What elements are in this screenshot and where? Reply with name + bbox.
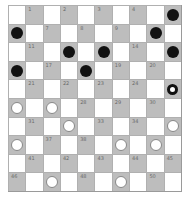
square-number: 31 [28,119,34,124]
light-square [112,5,129,24]
square-number: 43 [97,156,103,161]
square-50[interactable]: 50 [146,172,163,191]
light-square [25,135,42,154]
light-square [8,42,25,61]
light-square [60,61,77,80]
square-31[interactable]: 31 [25,117,42,136]
square-11[interactable]: 11 [25,42,42,61]
square-17[interactable]: 17 [43,61,60,80]
square-43[interactable]: 43 [94,154,111,173]
square-10[interactable] [146,24,163,43]
white-piece[interactable] [150,139,162,151]
square-32[interactable] [60,117,77,136]
square-number: 3 [97,7,100,12]
square-42[interactable]: 42 [60,154,77,173]
square-41[interactable]: 41 [25,154,42,173]
square-40[interactable] [146,135,163,154]
square-13[interactable] [94,42,111,61]
square-8[interactable]: 8 [77,24,94,43]
light-square [112,42,129,61]
square-46[interactable]: 46 [8,172,25,191]
black-piece[interactable] [150,27,162,39]
square-2[interactable]: 2 [60,5,77,24]
light-square [77,117,94,136]
square-9[interactable]: 9 [112,24,129,43]
light-square [112,117,129,136]
square-number: 4 [132,7,135,12]
square-15[interactable] [164,42,181,61]
light-square [25,172,42,191]
square-number: 28 [80,100,86,105]
light-square [129,98,146,117]
square-25[interactable] [164,79,181,98]
square-30[interactable]: 30 [146,98,163,117]
square-20[interactable]: 20 [146,61,163,80]
square-36[interactable] [8,135,25,154]
square-18[interactable] [77,61,94,80]
ring-piece[interactable] [167,84,178,95]
square-33[interactable]: 33 [94,117,111,136]
black-piece[interactable] [11,27,23,39]
square-number: 17 [46,63,52,68]
square-38[interactable]: 38 [77,135,94,154]
square-number: 46 [11,174,17,179]
square-35[interactable] [164,117,181,136]
light-square [43,5,60,24]
square-24[interactable]: 24 [129,79,146,98]
white-piece[interactable] [63,120,75,132]
light-square [8,5,25,24]
square-number: 22 [63,81,69,86]
square-27[interactable] [43,98,60,117]
square-26[interactable] [8,98,25,117]
square-29[interactable]: 29 [112,98,129,117]
square-21[interactable]: 21 [25,79,42,98]
square-34[interactable]: 34 [129,117,146,136]
square-number: 7 [46,26,49,31]
square-37[interactable]: 37 [43,135,60,154]
square-22[interactable]: 22 [60,79,77,98]
black-piece[interactable] [167,46,179,58]
black-piece[interactable] [63,46,75,58]
square-19[interactable]: 19 [112,61,129,80]
square-3[interactable]: 3 [94,5,111,24]
square-number: 29 [115,100,121,105]
white-piece[interactable] [46,102,58,114]
square-number: 44 [132,156,138,161]
black-piece[interactable] [11,65,23,77]
light-square [129,61,146,80]
square-number: 45 [167,156,173,161]
black-piece[interactable] [80,65,92,77]
square-44[interactable]: 44 [129,154,146,173]
square-number: 30 [149,100,155,105]
white-piece[interactable] [11,139,23,151]
light-square [164,24,181,43]
light-square [77,42,94,61]
square-23[interactable]: 23 [94,79,111,98]
black-piece[interactable] [167,9,179,21]
square-49[interactable] [112,172,129,191]
white-piece[interactable] [11,102,23,114]
white-piece[interactable] [46,176,58,188]
square-4[interactable]: 4 [129,5,146,24]
square-28[interactable]: 28 [77,98,94,117]
white-piece[interactable] [115,139,127,151]
black-piece[interactable] [98,46,110,58]
square-45[interactable]: 45 [164,154,181,173]
square-1[interactable]: 1 [25,5,42,24]
square-14[interactable]: 14 [129,42,146,61]
square-16[interactable] [8,61,25,80]
square-39[interactable] [112,135,129,154]
light-square [8,117,25,136]
square-47[interactable] [43,172,60,191]
square-48[interactable]: 48 [77,172,94,191]
white-piece[interactable] [115,176,127,188]
square-7[interactable]: 7 [43,24,60,43]
square-6[interactable] [8,24,25,43]
white-piece[interactable] [167,120,179,132]
square-5[interactable] [164,5,181,24]
square-12[interactable] [60,42,77,61]
light-square [25,61,42,80]
light-square [112,79,129,98]
light-square [77,154,94,173]
light-square [60,172,77,191]
